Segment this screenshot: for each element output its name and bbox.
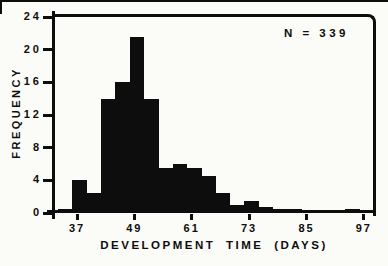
y-tick-mark xyxy=(43,16,54,19)
histogram-bar xyxy=(345,209,360,213)
histogram-bar xyxy=(201,176,216,213)
x-tick-label: 85 xyxy=(289,222,325,234)
histogram-bar xyxy=(230,205,245,213)
histogram-bar xyxy=(273,209,288,213)
y-tick-mark xyxy=(43,114,54,117)
y-tick-label: 4 xyxy=(8,173,42,185)
histogram-bar xyxy=(58,209,73,213)
x-tick-mark xyxy=(305,214,308,220)
histogram-bar xyxy=(187,168,202,213)
histogram-bar xyxy=(101,99,116,213)
x-axis-title: DEVELOPMENT TIME (DAYS) xyxy=(100,239,327,251)
x-tick-mark xyxy=(133,214,136,220)
y-tick-mark xyxy=(43,146,54,149)
x-tick-mark xyxy=(76,214,79,220)
histogram-bar xyxy=(130,37,145,213)
histogram-bar xyxy=(244,201,259,213)
histogram-bar xyxy=(144,99,159,213)
histogram-bar xyxy=(115,82,130,213)
x-tick-label: 37 xyxy=(59,222,95,234)
y-tick-label: 20 xyxy=(8,43,42,55)
histogram-bar xyxy=(72,180,87,213)
histogram-figure: 04812162024 374961738597 N = 339 FREQUEN… xyxy=(0,0,388,266)
plot-area: 04812162024 374961738597 N = 339 xyxy=(54,17,371,213)
histogram-bar xyxy=(216,193,231,213)
histogram-bar xyxy=(87,193,102,213)
x-tick-label: 61 xyxy=(174,222,210,234)
histogram-bar xyxy=(259,207,274,214)
y-tick-label: 0 xyxy=(8,206,42,218)
histogram-bar xyxy=(173,164,188,213)
y-tick-mark xyxy=(43,212,54,215)
histogram-bar xyxy=(287,209,302,213)
histogram-bar xyxy=(158,168,173,213)
scan-artifact-line xyxy=(0,0,388,2)
scan-artifact-corner xyxy=(0,0,2,14)
y-tick-mark xyxy=(43,81,54,84)
y-tick-mark xyxy=(43,179,54,182)
x-tick-mark xyxy=(248,214,251,220)
y-tick-mark xyxy=(43,48,54,51)
x-tick-label: 97 xyxy=(346,222,382,234)
sample-size-annotation: N = 339 xyxy=(284,27,349,39)
x-tick-label: 73 xyxy=(231,222,267,234)
y-axis-title: FREQUENCY xyxy=(10,67,22,159)
x-tick-mark xyxy=(362,214,365,220)
y-tick-label: 24 xyxy=(8,10,42,22)
x-tick-mark xyxy=(190,214,193,220)
x-tick-label: 49 xyxy=(116,222,152,234)
